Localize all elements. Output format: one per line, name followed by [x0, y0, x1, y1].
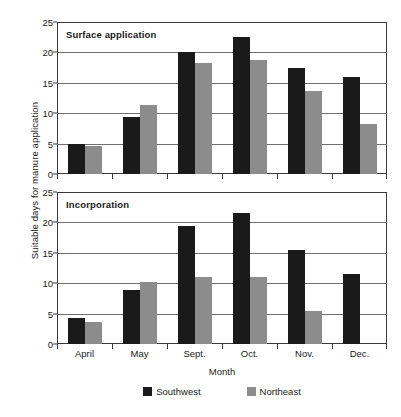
bar-pair [222, 192, 277, 344]
bar-northeast-oct [250, 60, 267, 174]
bar-group [332, 22, 387, 174]
bar-southwest-may [123, 290, 140, 344]
bar-northeast-dec [360, 124, 377, 174]
legend-item-southwest: Southwest [143, 386, 200, 397]
bar-group [167, 192, 222, 344]
panel-incorporation: Incorporation 0510152025 [57, 192, 387, 344]
bar-southwest-nov [288, 68, 305, 174]
bar-northeast-oct [250, 277, 267, 344]
bar-northeast-april [85, 146, 102, 174]
legend-label: Northeast [260, 386, 301, 397]
x-tick-mark [332, 174, 387, 179]
x-axis-title: Month [57, 366, 387, 377]
bar-southwest-oct [233, 213, 250, 344]
bar-southwest-sept [178, 226, 195, 344]
legend-item-northeast: Northeast [247, 386, 301, 397]
x-tick-label: May [112, 348, 167, 359]
x-tick-label: Dec. [332, 348, 387, 359]
bar-group [57, 22, 112, 174]
y-tick-label: 15 [31, 247, 53, 258]
bar-group [277, 192, 332, 344]
bar-northeast-may [140, 105, 157, 174]
x-tick-mark [112, 174, 167, 179]
y-tick-label: 5 [31, 308, 53, 319]
y-tick-label: 20 [31, 217, 53, 228]
y-tick-label: 10 [31, 108, 53, 119]
bar-group [222, 192, 277, 344]
y-tick-label: 0 [31, 339, 53, 350]
y-tick-label: 25 [31, 17, 53, 28]
x-tick-label: Nov. [277, 348, 332, 359]
bar-pair [167, 192, 222, 344]
bar-group [112, 192, 167, 344]
x-tick-label: Oct. [222, 348, 277, 359]
panel-title-top: Surface application [66, 29, 156, 40]
y-tick-label: 25 [31, 187, 53, 198]
bar-pair [167, 22, 222, 174]
x-axis-labels: AprilMaySept.Oct.Nov.Dec. [57, 348, 387, 359]
bar-pair [277, 192, 332, 344]
x-tickmarks-top [57, 174, 387, 179]
bar-southwest-may [123, 117, 140, 174]
bar-pair [332, 192, 387, 344]
legend-swatch-southwest [143, 387, 152, 396]
y-tick-label: 20 [31, 47, 53, 58]
bar-pair [332, 22, 387, 174]
x-tick-label: Sept. [167, 348, 222, 359]
x-tick-label: April [57, 348, 112, 359]
bar-groups-top [57, 22, 387, 174]
bar-pair [222, 22, 277, 174]
chart-legend: SouthwestNortheast [57, 386, 387, 397]
y-axis-title: Suitable days for manure application [29, 61, 40, 301]
y-tick-label: 5 [31, 138, 53, 149]
bar-southwest-april [68, 144, 85, 174]
bar-southwest-oct [233, 37, 250, 174]
panel-title-bottom: Incorporation [66, 199, 129, 210]
bar-northeast-may [140, 282, 157, 344]
legend-label: Southwest [156, 386, 200, 397]
bar-southwest-dec [343, 274, 360, 344]
bar-group [112, 22, 167, 174]
bar-southwest-sept [178, 52, 195, 174]
x-tick-mark [222, 174, 277, 179]
bar-pair [112, 192, 167, 344]
bar-southwest-nov [288, 250, 305, 344]
y-tick-label: 15 [31, 77, 53, 88]
bar-pair [57, 192, 112, 344]
bar-group [222, 22, 277, 174]
x-tick-mark [167, 174, 222, 179]
bar-northeast-sept [195, 277, 212, 344]
y-tick-label: 0 [31, 169, 53, 180]
panel-surface-application: Surface application 0510152025 [57, 22, 387, 174]
bar-group [57, 192, 112, 344]
bar-northeast-sept [195, 63, 212, 174]
bar-pair [57, 22, 112, 174]
x-tick-mark [57, 174, 112, 179]
bar-group [167, 22, 222, 174]
bar-group [332, 192, 387, 344]
bar-northeast-april [85, 322, 102, 344]
bar-southwest-dec [343, 77, 360, 174]
bar-pair [112, 22, 167, 174]
chart-figure: Suitable days for manure application Sur… [0, 0, 401, 417]
bar-pair [277, 22, 332, 174]
bar-northeast-nov [305, 91, 322, 174]
bar-groups-bottom [57, 192, 387, 344]
legend-swatch-northeast [247, 387, 256, 396]
bar-southwest-april [68, 318, 85, 344]
bar-group [277, 22, 332, 174]
bar-northeast-nov [305, 311, 322, 344]
x-tick-mark [277, 174, 332, 179]
y-tick-label: 10 [31, 278, 53, 289]
